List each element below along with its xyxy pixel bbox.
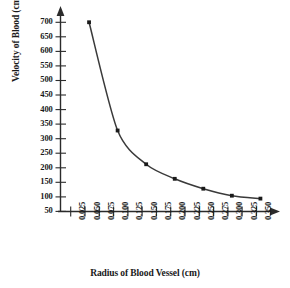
x-tick-label: 0.150 bbox=[150, 202, 159, 220]
data-point-marker bbox=[259, 197, 263, 201]
x-tick-label: 0.200 bbox=[178, 202, 187, 220]
x-tick-label: 0.225 bbox=[193, 202, 202, 220]
x-tick-label: 0.275 bbox=[221, 202, 230, 220]
x-tick-label: 0.050 bbox=[93, 202, 102, 220]
x-tick-label: 0.125 bbox=[135, 202, 144, 220]
data-point-marker bbox=[173, 177, 177, 181]
y-tick-label: 200 bbox=[27, 163, 53, 172]
data-point-marker bbox=[230, 194, 234, 198]
y-tick-label: 500 bbox=[27, 75, 53, 84]
y-tick-label: 600 bbox=[27, 46, 53, 55]
chart-figure: 7006506005505004504003503002502001501005… bbox=[0, 0, 290, 288]
x-tick-label: 0.075 bbox=[107, 202, 116, 220]
y-tick-label: 350 bbox=[27, 119, 53, 128]
x-tick-label: 0.025 bbox=[78, 202, 87, 220]
x-tick-label: 0.300 bbox=[235, 202, 244, 220]
x-tick-label: 0.350 bbox=[264, 202, 273, 220]
y-tick-label: 550 bbox=[27, 61, 53, 70]
y-tick-label: 250 bbox=[27, 148, 53, 157]
y-tick-label: 150 bbox=[27, 177, 53, 186]
y-tick-label: 400 bbox=[27, 105, 53, 114]
y-tick-label: 100 bbox=[27, 192, 53, 201]
x-tick-label: 0.325 bbox=[250, 202, 259, 220]
plot-area bbox=[0, 0, 290, 288]
x-axis-title: Radius of Blood Vessel (cm) bbox=[0, 268, 290, 278]
y-axis-title: Velocity of Blood (cm/sec) bbox=[10, 0, 22, 82]
y-tick-label: 700 bbox=[27, 17, 53, 26]
y-tick-label: 300 bbox=[27, 134, 53, 143]
data-point-markers bbox=[87, 20, 262, 200]
x-tick-label: 0.100 bbox=[121, 202, 130, 220]
data-series-curve bbox=[89, 22, 260, 198]
data-point-marker bbox=[87, 20, 91, 24]
data-point-marker bbox=[144, 162, 148, 166]
y-tick-label: 650 bbox=[27, 32, 53, 41]
y-tick-label: 450 bbox=[27, 90, 53, 99]
x-tick-label: 0.175 bbox=[164, 202, 173, 220]
y-tick-label: 50 bbox=[27, 206, 53, 215]
data-point-marker bbox=[116, 129, 120, 133]
data-point-marker bbox=[201, 187, 205, 191]
x-tick-label: 0.250 bbox=[207, 202, 216, 220]
y-axis-arrowhead bbox=[57, 6, 65, 16]
